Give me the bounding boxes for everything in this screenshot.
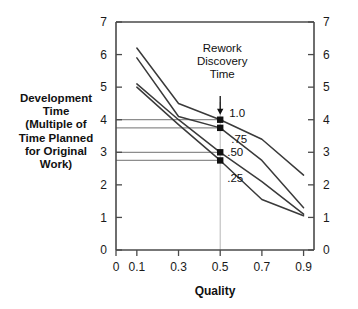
y-axis-title-line-5: for Original	[25, 145, 87, 157]
curve-label-1.0: 1.0	[229, 107, 245, 119]
annotation-arrow-head	[217, 109, 223, 115]
curve-label-group: 1.0.75.50.25	[227, 107, 247, 185]
y-axis-title-line-6: Work)	[40, 158, 72, 170]
curve-label-.25: .25	[227, 172, 243, 184]
y-axis-title-line-4: Time Planned	[19, 132, 94, 144]
y-tick-label-right-6: 6	[323, 48, 330, 62]
x-tick-label-0.5: 0.5	[212, 260, 229, 274]
x-tick-label-0.7: 0.7	[254, 260, 271, 274]
y-tick-label-left-2: 2	[100, 178, 107, 192]
curve-label-.50: .50	[227, 146, 243, 158]
rework-discovery-annotation: ReworkDiscoveryTime	[197, 42, 248, 115]
y-axis-title-line-2: Time	[43, 105, 70, 117]
chart-figure: Development Time (Multiple of Time Plann…	[0, 0, 358, 309]
y-axis-title: Development Time (Multiple of Time Plann…	[4, 92, 108, 171]
x-tick-label-0.9: 0.9	[295, 260, 312, 274]
curve-label-.75: .75	[231, 133, 247, 145]
x-tick-label-0.1: 0.1	[128, 260, 145, 274]
x-tick-label-0.3: 0.3	[170, 260, 187, 274]
y-tick-label-left-0: 0	[100, 243, 107, 257]
annotation-line-2: Discovery	[197, 55, 248, 67]
x-tick-label-0: 0	[113, 260, 120, 274]
x-axis-title: Quality	[195, 284, 236, 298]
data-marker-.25	[217, 157, 223, 163]
y-tick-label-right-5: 5	[323, 80, 330, 94]
annotation-line-1: Rework	[203, 42, 242, 54]
data-marker-.50	[217, 149, 223, 155]
y-tick-label-left-1: 1	[100, 211, 107, 225]
y-axis-title-line-1: Development	[20, 92, 92, 104]
data-marker-1.0	[217, 117, 223, 123]
y-tick-label-right-0: 0	[323, 243, 330, 257]
y-tick-label-left-6: 6	[100, 48, 107, 62]
data-marker-.75	[217, 125, 223, 131]
x-axis-title-group: Quality	[195, 284, 236, 298]
y-tick-label-right-4: 4	[323, 113, 330, 127]
annotation-line-3: Time	[210, 68, 235, 80]
y-tick-label-right-7: 7	[323, 15, 330, 29]
y-axis-title-line-3: (Multiple of	[25, 118, 86, 130]
y-tick-label-right-2: 2	[323, 178, 330, 192]
y-tick-label-right-3: 3	[323, 145, 330, 159]
y-tick-label-right-1: 1	[323, 211, 330, 225]
y-tick-label-left-7: 7	[100, 15, 107, 29]
